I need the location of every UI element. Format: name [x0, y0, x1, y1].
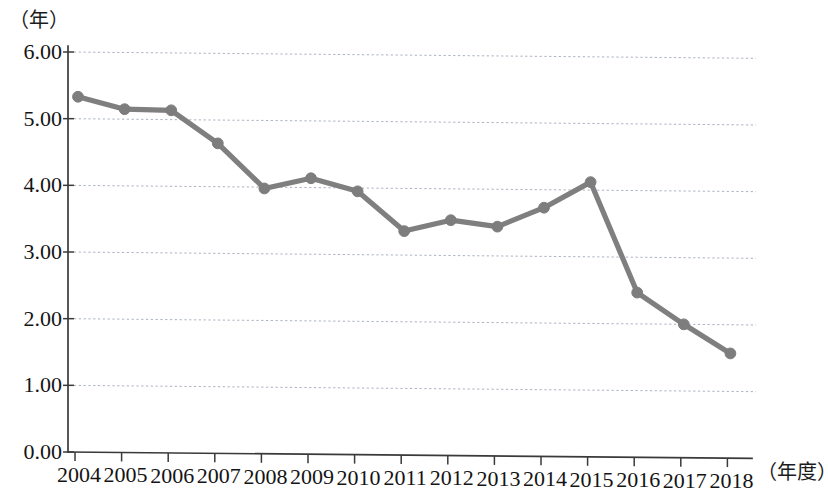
gridline — [74, 385, 756, 391]
gridline — [74, 185, 756, 191]
data-point-marker — [352, 186, 363, 197]
gridline — [74, 252, 756, 258]
data-point-marker — [119, 104, 130, 115]
data-point-marker — [166, 105, 177, 116]
data-point-marker — [445, 215, 456, 226]
gridlines — [74, 52, 756, 392]
data-point-marker — [678, 319, 689, 330]
series-line — [78, 97, 730, 354]
gridline — [74, 119, 756, 125]
data-point-marker — [539, 202, 550, 213]
data-point-marker — [259, 183, 270, 194]
data-point-marker — [585, 177, 596, 188]
data-point-marker — [632, 287, 643, 298]
data-point-marker — [399, 226, 410, 237]
x-axis-line — [68, 452, 752, 458]
data-point-marker — [725, 348, 736, 359]
data-point-marker — [73, 91, 84, 102]
axis-tickmarks — [63, 52, 727, 467]
data-point-markers — [73, 91, 736, 358]
gridline — [74, 319, 756, 325]
data-point-marker — [306, 173, 317, 184]
data-point-marker — [212, 138, 223, 149]
data-point-marker — [492, 221, 503, 232]
gridline — [74, 52, 756, 58]
data-series — [78, 97, 730, 354]
